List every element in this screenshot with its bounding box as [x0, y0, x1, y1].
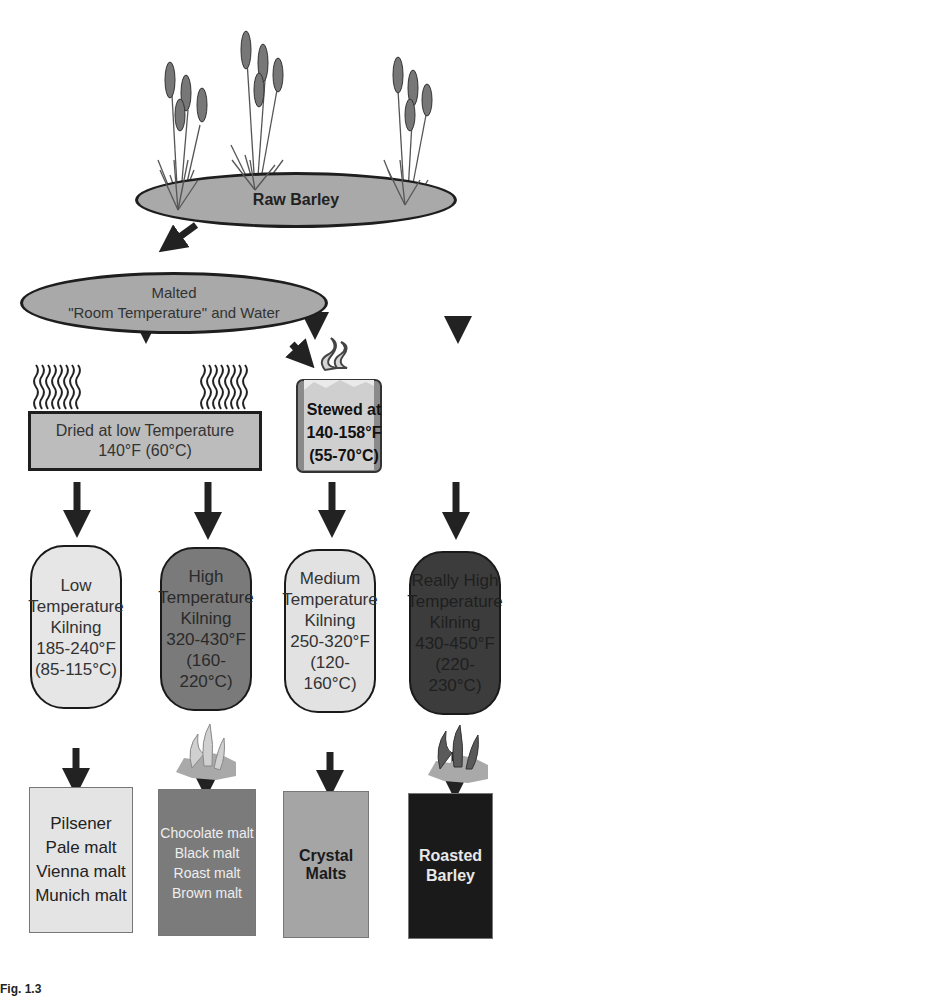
- product-node-pale-malts: Pilsener Pale malt Vienna malt Munich ma…: [29, 787, 133, 933]
- kilning-node-low: Low Temperature Kilning 185-240°F (85-11…: [30, 545, 122, 709]
- kilning-node-really-high: Really High Temperature Kilning 430-450°…: [409, 551, 501, 715]
- heat-wave-icon: [33, 365, 85, 409]
- dried-temperature: 140°F (60°C): [98, 441, 192, 461]
- kilning-node-high: High Temperature Kilning 320-430°F (160-…: [160, 547, 252, 711]
- kilning-node-medium: Medium Temperature Kilning 250-320°F (12…: [284, 549, 376, 713]
- malted-sublabel: "Room Temperature" and Water: [68, 303, 280, 323]
- product-node-crystal-malts: Crystal Malts: [283, 791, 369, 938]
- dried-label: Dried at low Temperature: [56, 421, 234, 441]
- campfire-icon: [424, 725, 494, 795]
- campfire-icon: [172, 722, 242, 792]
- figure-caption: Fig. 1.3: [0, 982, 41, 996]
- dried-node: Dried at low Temperature 140°F (60°C): [28, 411, 262, 471]
- malted-label: Malted: [151, 283, 196, 303]
- heat-wave-icon: [200, 365, 252, 409]
- stewed-label: Stewed at 140-158°F (55-70°C): [305, 398, 383, 467]
- malted-node: Malted "Room Temperature" and Water: [20, 272, 328, 334]
- product-node-dark-malts: Chocolate malt Black malt Roast malt Bro…: [158, 789, 256, 936]
- product-node-roasted-barley: Roasted Barley: [408, 793, 493, 939]
